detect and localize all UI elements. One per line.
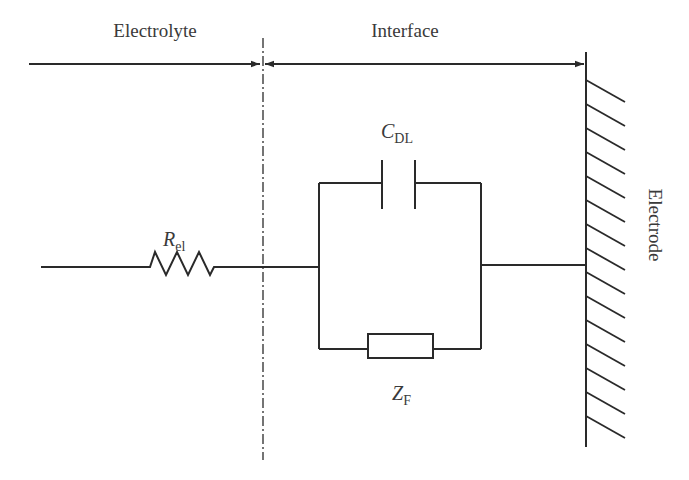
capacitor-label: CDL [381,120,413,146]
electrode-label: Electrode [645,189,666,262]
electrode-wall [586,52,625,447]
parallel-network [319,183,586,349]
resistor-rel [41,252,319,275]
interface-label: Interface [371,20,439,41]
impedance-zf [319,334,481,358]
capacitor-cdl [319,160,481,209]
impedance-label: ZF [392,382,411,408]
circuit-diagram: Electrolyte Interface [0,0,689,480]
electrolyte-label: Electrolyte [113,20,196,41]
resistor-label: Rel [162,228,185,254]
